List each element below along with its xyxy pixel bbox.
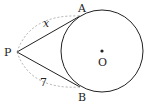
- label-a: A: [77, 2, 87, 15]
- tangent-segment-pb: [17, 52, 80, 87]
- label-b: B: [78, 91, 86, 104]
- label-o: O: [98, 56, 107, 69]
- tangent-diagram: A B O P x 7: [0, 0, 153, 105]
- label-7: 7: [40, 76, 47, 89]
- label-p: P: [4, 46, 12, 59]
- label-x: x: [43, 17, 50, 30]
- center-point-o: [100, 49, 103, 52]
